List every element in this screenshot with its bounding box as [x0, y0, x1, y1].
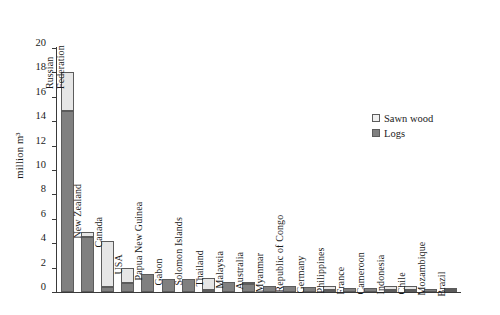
y-tick-label: 6: [16, 213, 46, 214]
legend: Sawn wood Logs: [372, 112, 433, 142]
y-tick-label: 20: [16, 42, 46, 43]
legend-swatch-sawn-wood: [372, 114, 380, 122]
x-category-label: Australia: [234, 252, 245, 290]
y-tick-label: 12: [16, 140, 46, 141]
y-axis-label: million m³: [14, 111, 25, 201]
x-category-label: Indonesia: [376, 254, 387, 294]
bar-segment-logs: [202, 290, 215, 292]
y-tick-label: 18: [16, 66, 46, 67]
x-category-label: Russian Federation: [45, 46, 66, 90]
x-category-label: Republic of Congo: [275, 215, 286, 293]
y-tick: [52, 292, 57, 293]
y-tick-label: 14: [16, 115, 46, 116]
legend-swatch-logs: [372, 129, 380, 137]
x-category-label: USA: [113, 254, 124, 274]
x-category-label: Papua New Guinea: [133, 202, 144, 281]
bar-segment-logs: [101, 287, 114, 292]
bar: [61, 72, 74, 292]
bar-segment-logs: [121, 283, 134, 292]
x-category-label: Solomon Islands: [174, 217, 185, 285]
x-category-label: Chile: [396, 272, 407, 294]
y-tick-label: 8: [16, 188, 46, 189]
legend-label-sawn-wood: Sawn wood: [384, 113, 433, 124]
x-category-label: France: [335, 266, 346, 294]
y-tick-label: 16: [16, 91, 46, 92]
x-category-label: Cameroon: [356, 252, 367, 294]
x-category-label: Thailand: [194, 250, 205, 286]
y-tick-label: 0: [16, 286, 46, 287]
x-category-label: Malaysia: [214, 251, 225, 288]
x-category-label: New Zealand: [73, 184, 84, 239]
x-category-label: Brazil: [436, 271, 447, 296]
y-tick-label: 4: [16, 237, 46, 238]
x-category-label: Myanmar: [255, 253, 266, 293]
bar-chart: million m³ 20181614121086420 Russian Fed…: [0, 0, 500, 315]
legend-item-sawn-wood: Sawn wood: [372, 112, 433, 124]
y-tick-label: 10: [16, 164, 46, 165]
legend-item-logs: Logs: [372, 127, 433, 139]
legend-label-logs: Logs: [384, 128, 405, 139]
x-category-label: Gabon: [154, 258, 165, 285]
x-category-label: Germany: [295, 256, 306, 294]
x-category-label: Philippines: [315, 248, 326, 294]
x-category-label: Mozambique: [416, 242, 427, 296]
y-tick-label: 2: [16, 262, 46, 263]
x-category-label: Canada: [93, 217, 104, 248]
